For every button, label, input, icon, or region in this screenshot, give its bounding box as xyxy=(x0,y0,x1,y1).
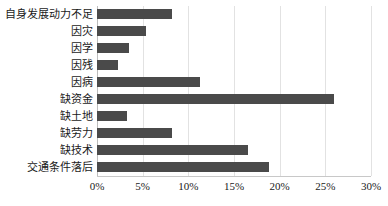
bar xyxy=(97,94,334,104)
category-label: 自身发展动力不足 xyxy=(5,6,93,23)
bar-row: 缺劳力 xyxy=(97,125,371,142)
bar xyxy=(97,162,269,172)
category-label: 因灾 xyxy=(71,23,93,40)
bar xyxy=(97,9,172,19)
x-tick-label: 25% xyxy=(302,180,348,192)
bar-row: 因灾 xyxy=(97,23,371,40)
bar-row: 因学 xyxy=(97,40,371,57)
bar xyxy=(97,60,118,70)
x-tick-label: 0% xyxy=(74,180,120,192)
bars-layer: 自身发展动力不足因灾因学因残因病缺资金缺土地缺劳力缺技术交通条件落后 xyxy=(97,6,371,176)
category-label: 缺劳力 xyxy=(60,125,93,142)
x-tick-label: 20% xyxy=(257,180,303,192)
bar xyxy=(97,77,200,87)
bar-row: 因残 xyxy=(97,57,371,74)
x-tick-label: 15% xyxy=(211,180,257,192)
category-label: 缺资金 xyxy=(60,91,93,108)
bar xyxy=(97,43,129,53)
category-label: 交通条件落后 xyxy=(27,159,93,176)
category-label: 因病 xyxy=(71,74,93,91)
bar-row: 缺土地 xyxy=(97,108,371,125)
category-label: 因残 xyxy=(71,57,93,74)
bar-row: 自身发展动力不足 xyxy=(97,6,371,23)
bar xyxy=(97,26,146,36)
plot-area: 自身发展动力不足因灾因学因残因病缺资金缺土地缺劳力缺技术交通条件落后 xyxy=(97,6,371,176)
bar xyxy=(97,128,172,138)
x-tick-label: 30% xyxy=(348,180,388,192)
bar-row: 缺技术 xyxy=(97,142,371,159)
bar xyxy=(97,111,127,121)
bar-row: 交通条件落后 xyxy=(97,159,371,176)
bar-chart: 自身发展动力不足因灾因学因残因病缺资金缺土地缺劳力缺技术交通条件落后 0%5%1… xyxy=(0,0,388,206)
bar-row: 因病 xyxy=(97,74,371,91)
category-label: 缺技术 xyxy=(60,142,93,159)
category-label: 因学 xyxy=(71,40,93,57)
x-axis-line xyxy=(97,176,371,177)
category-label: 缺土地 xyxy=(60,108,93,125)
bar xyxy=(97,145,248,155)
x-tick-label: 10% xyxy=(165,180,211,192)
gridline xyxy=(371,6,372,176)
bar-row: 缺资金 xyxy=(97,91,371,108)
x-tick-label: 5% xyxy=(120,180,166,192)
